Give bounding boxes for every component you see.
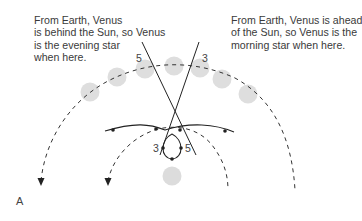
evening-star-caption: From Earth, Venus is behind the Sun, so … [34, 14, 165, 64]
inner-arrow-icon [105, 178, 112, 186]
earth-circle [163, 167, 182, 186]
panel-label: A [16, 195, 23, 207]
outer-arrow-icon [38, 178, 45, 186]
label-5-top: 5 [136, 53, 142, 64]
label-3-top: 3 [202, 53, 208, 64]
morning-star-caption: From Earth, Venus is ahead of the Sun, s… [231, 14, 362, 51]
label-3-loop: 3 [153, 143, 159, 154]
label-5-loop: 5 [185, 143, 191, 154]
